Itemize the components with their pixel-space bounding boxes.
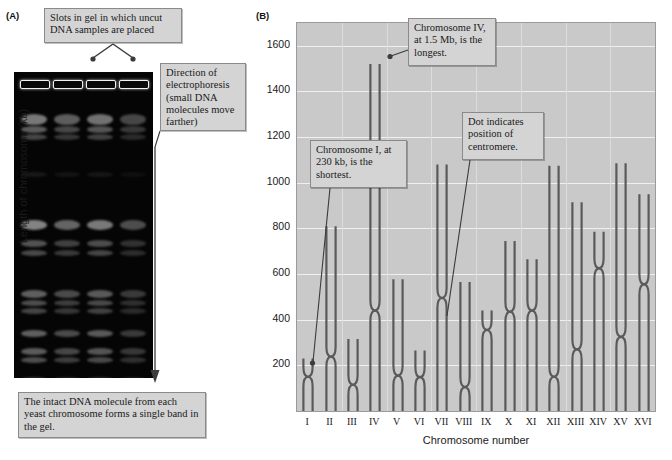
gel-band xyxy=(54,300,80,306)
panel-a-label: (A) xyxy=(6,10,19,21)
gel-band xyxy=(21,308,47,314)
gel-band xyxy=(120,357,146,363)
figure-root: (A) Slots in gel in which uncut DNA samp… xyxy=(0,0,672,460)
x-tick-label-XVI: XVI xyxy=(629,416,657,427)
chromosome-IV xyxy=(364,23,386,411)
chromosome-VI xyxy=(409,23,431,411)
gel-band xyxy=(21,300,47,306)
callout-intact-dna-molecule: The intact DNA molecule from each yeast … xyxy=(18,392,206,438)
gel-band xyxy=(54,220,80,230)
x-axis-label: Chromosome number xyxy=(296,434,656,446)
gel-band xyxy=(54,172,80,177)
chromosome-VII xyxy=(431,23,453,411)
gel-band xyxy=(21,290,47,298)
chromosome-XIV xyxy=(588,23,610,411)
y-tick-label: 600 xyxy=(250,266,290,278)
gel-band xyxy=(87,126,113,133)
gel-band xyxy=(54,308,80,314)
chromosome-III xyxy=(342,23,364,411)
chromosome-XVI xyxy=(633,23,655,411)
chromosome-length-chart xyxy=(296,22,656,412)
gel-band xyxy=(87,377,113,378)
gel-band xyxy=(21,357,47,363)
gel-band xyxy=(87,357,113,363)
gel-band xyxy=(87,134,113,140)
gel-band xyxy=(120,300,146,306)
gel-band xyxy=(54,290,80,298)
gel-band xyxy=(54,126,80,133)
gel-band xyxy=(21,348,47,355)
chromosome-XII xyxy=(543,23,565,411)
panel-b-label: (B) xyxy=(256,10,269,21)
gel-well xyxy=(86,80,116,89)
gel-band xyxy=(120,377,146,378)
y-tick-label: 1400 xyxy=(250,83,290,95)
y-tick-label: 1600 xyxy=(250,38,290,50)
gel-band xyxy=(120,240,146,247)
gel-band xyxy=(54,357,80,363)
chromosome-XI xyxy=(521,23,543,411)
gel-band xyxy=(120,308,146,314)
chromosome-II xyxy=(320,23,342,411)
callout-slots-in-gel: Slots in gel in which uncut DNA samples … xyxy=(44,8,182,43)
gel-band xyxy=(120,114,146,125)
y-tick-label: 1200 xyxy=(250,129,290,141)
gel-band xyxy=(54,240,80,247)
gel-band xyxy=(87,300,113,306)
gel-band xyxy=(120,172,146,177)
callout-centromere-dot: Dot indicates position of centromere. xyxy=(462,112,544,160)
gel-band xyxy=(120,126,146,133)
gel-band xyxy=(87,290,113,298)
gel-well xyxy=(20,80,50,89)
y-tick-label: 1000 xyxy=(250,175,290,187)
y-axis-label: Length of chromosome (kb) xyxy=(17,91,29,261)
gel-well xyxy=(53,80,83,89)
gel-band xyxy=(21,377,47,378)
gel-well xyxy=(119,80,149,89)
y-tick-label: 200 xyxy=(250,357,290,369)
gel-band xyxy=(54,134,80,140)
gel-band xyxy=(87,250,113,256)
gel-band xyxy=(21,330,47,337)
gel-band xyxy=(120,330,146,337)
gel-band xyxy=(120,134,146,140)
gel-band xyxy=(120,250,146,256)
chromosome-IX xyxy=(476,23,498,411)
chromosome-I xyxy=(297,23,319,411)
gel-band xyxy=(54,377,80,378)
chromosome-XIII xyxy=(566,23,588,411)
callout-longest-chromosome: Chromosome IV, at 1.5 Mb, is the longest… xyxy=(408,18,496,66)
gel-band xyxy=(87,172,113,177)
y-tick-label: 400 xyxy=(250,312,290,324)
chromosome-X xyxy=(499,23,521,411)
y-tick-label: 800 xyxy=(250,220,290,232)
gel-band xyxy=(87,220,113,230)
gel-band xyxy=(87,308,113,314)
gel-band xyxy=(54,348,80,355)
gel-band xyxy=(87,330,113,337)
callout-direction-of-electrophoresis: Direction of electrophoresis (small DNA … xyxy=(160,63,246,131)
chromosome-VIII xyxy=(454,23,476,411)
gel-band xyxy=(54,330,80,337)
callout-shortest-chromosome: Chromosome I, at 230 kb, is the shortest… xyxy=(310,140,407,188)
gel-band xyxy=(87,240,113,247)
chromosome-V xyxy=(387,23,409,411)
gel-band xyxy=(120,220,146,230)
gel-band xyxy=(120,290,146,298)
gel-electrophoresis-image xyxy=(14,72,153,378)
gel-band xyxy=(54,250,80,256)
chromosome-XV xyxy=(610,23,632,411)
gel-band xyxy=(120,348,146,355)
gel-band xyxy=(87,114,113,125)
gel-band xyxy=(87,348,113,355)
gel-band xyxy=(54,114,80,125)
